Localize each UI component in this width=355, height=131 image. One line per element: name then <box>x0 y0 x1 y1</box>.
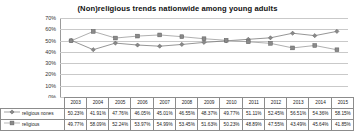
square-marker-icon <box>136 34 140 38</box>
square-marker-icon <box>246 40 250 44</box>
table-cell-value: 49.77% <box>220 109 242 120</box>
table-cell-value: 58.09% <box>86 120 108 131</box>
x-axis-tick-label: 2003 <box>64 98 86 109</box>
table-cell-value: 43.49% <box>287 120 309 131</box>
table-cell-value: 54.99% <box>153 120 175 131</box>
square-marker-icon <box>291 46 295 50</box>
diamond-marker-icon <box>91 48 95 52</box>
square-marker-icon <box>4 120 20 130</box>
square-marker-icon <box>69 39 73 43</box>
table-cell-value: 47.55% <box>264 120 286 131</box>
table-cell-value: 50.23% <box>64 109 86 120</box>
y-axis-tick-label: 10% <box>16 83 56 89</box>
table-cell-value: 46.05% <box>131 109 153 120</box>
y-axis-tick-label: 40% <box>16 49 56 55</box>
plot-area: 0%10%20%30%40%50%60%70% <box>60 18 348 97</box>
table-cell-value: 53.97% <box>131 120 153 131</box>
table-header-row: 2003200420052006200720082009201020112012… <box>1 98 354 109</box>
x-axis-tick-label: 2006 <box>131 98 153 109</box>
y-axis-tick-label: 50% <box>16 38 56 44</box>
table-cell-value: 52.45% <box>264 109 286 120</box>
square-marker-icon <box>113 36 117 40</box>
square-marker-icon <box>158 33 162 37</box>
x-axis-tick-label: 2013 <box>287 98 309 109</box>
table-cell-value: 51.11% <box>242 109 264 120</box>
legend-label: religious <box>22 122 39 127</box>
square-marker-icon <box>269 41 273 45</box>
chart-container: (Non)religious trends nationwide among y… <box>0 0 355 131</box>
diamond-marker-icon <box>268 36 272 40</box>
table-corner-cell <box>1 98 65 109</box>
table-cell-value: 52.24% <box>109 120 131 131</box>
diamond-marker-icon <box>113 41 117 45</box>
square-marker-icon <box>224 38 228 42</box>
table-cell-value: 54.36% <box>309 109 331 120</box>
diamond-marker-icon <box>313 34 317 38</box>
square-marker-icon <box>313 44 317 48</box>
diamond-marker-icon <box>135 43 139 47</box>
data-table: 2003200420052006200720082009201020112012… <box>0 97 354 131</box>
diamond-marker-icon <box>291 31 295 35</box>
x-axis-tick-label: 2008 <box>175 98 197 109</box>
square-marker-icon <box>202 37 206 41</box>
square-marker-icon <box>91 30 95 34</box>
table-cell-value: 41.91% <box>86 109 108 120</box>
table-cell-value: 47.76% <box>109 109 131 120</box>
table-row: religious49.77%58.09%52.24%53.97%54.99%5… <box>1 120 354 131</box>
legend-item-religious-nones: religious nones <box>1 109 65 120</box>
table-cell-value: 51.63% <box>198 120 220 131</box>
table-cell-value: 58.15% <box>331 109 353 120</box>
plot-canvas: 0%10%20%30%40%50%60%70% <box>60 18 348 97</box>
x-axis-tick-label: 2011 <box>242 98 264 109</box>
table-cell-value: 53.45% <box>175 120 197 131</box>
table-row: religious nones50.23%41.91%47.76%46.05%4… <box>1 109 354 120</box>
y-axis-tick-label: 30% <box>16 60 56 66</box>
y-axis-tick-label: 70% <box>16 15 56 21</box>
y-axis-tick-label: 60% <box>16 26 56 32</box>
diamond-marker-icon <box>335 29 339 33</box>
table-cell-value: 48.37% <box>198 109 220 120</box>
x-axis-tick-label: 2004 <box>86 98 108 109</box>
table-cell-value: 45.01% <box>153 109 175 120</box>
table-cell-value: 49.77% <box>64 120 86 131</box>
diamond-marker-icon <box>158 44 162 48</box>
series-layer <box>60 18 348 97</box>
x-axis-tick-label: 2015 <box>331 98 353 109</box>
table-cell-value: 50.23% <box>220 120 242 131</box>
y-axis-tick-label: 20% <box>16 71 56 77</box>
square-marker-icon <box>335 48 339 52</box>
diamond-marker-icon <box>180 42 184 46</box>
x-axis-tick-label: 2010 <box>220 98 242 109</box>
diamond-marker-icon <box>4 109 20 119</box>
diamond-marker-icon <box>202 40 206 44</box>
legend-item-religious: religious <box>1 120 65 131</box>
table-cell-value: 48.89% <box>242 120 264 131</box>
x-axis-tick-label: 2014 <box>309 98 331 109</box>
square-marker-icon <box>180 35 184 39</box>
x-axis-tick-label: 2005 <box>109 98 131 109</box>
table-cell-value: 56.51% <box>287 109 309 120</box>
legend-label: religious nones <box>22 111 54 116</box>
x-axis-tick-label: 2012 <box>264 98 286 109</box>
table-cell-value: 45.64% <box>309 120 331 131</box>
table-cell-value: 46.55% <box>175 109 197 120</box>
chart-title: (Non)religious trends nationwide among y… <box>0 4 355 13</box>
x-axis-tick-label: 2009 <box>198 98 220 109</box>
x-axis-tick-label: 2007 <box>153 98 175 109</box>
table-cell-value: 41.85% <box>331 120 353 131</box>
